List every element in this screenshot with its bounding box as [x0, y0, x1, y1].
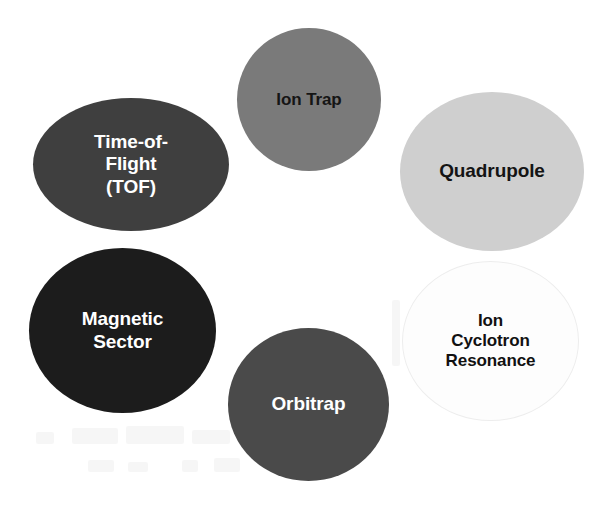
- scan-artifact: [88, 460, 114, 472]
- node-label-ion-cyclotron-resonance: Ion Cyclotron Resonance: [442, 311, 540, 371]
- scan-artifact: [214, 458, 240, 472]
- node-label-orbitrap: Orbitrap: [267, 393, 349, 415]
- scan-artifact: [72, 428, 118, 444]
- scan-artifact: [392, 300, 400, 366]
- node-orbitrap[interactable]: Orbitrap: [228, 328, 389, 481]
- node-label-ion-trap: Ion Trap: [272, 90, 345, 110]
- node-label-quadrupole: Quadrupole: [435, 160, 549, 182]
- scan-artifact: [192, 430, 230, 444]
- node-magnetic-sector[interactable]: Magnetic Sector: [29, 248, 216, 413]
- node-ion-cyclotron-resonance[interactable]: Ion Cyclotron Resonance: [402, 261, 579, 421]
- node-quadrupole[interactable]: Quadrupole: [400, 92, 584, 251]
- scan-artifact: [36, 432, 54, 444]
- node-label-time-of-flight: Time-of- Flight (TOF): [90, 131, 172, 198]
- scan-artifact: [126, 426, 184, 444]
- node-ion-trap[interactable]: Ion Trap: [237, 28, 381, 171]
- node-time-of-flight[interactable]: Time-of- Flight (TOF): [33, 98, 229, 231]
- scan-artifact: [128, 462, 148, 472]
- scan-artifact: [182, 460, 198, 472]
- diagram-canvas: Time-of- Flight (TOF) Ion Trap Quadrupol…: [0, 0, 612, 507]
- node-label-magnetic-sector: Magnetic Sector: [78, 308, 168, 352]
